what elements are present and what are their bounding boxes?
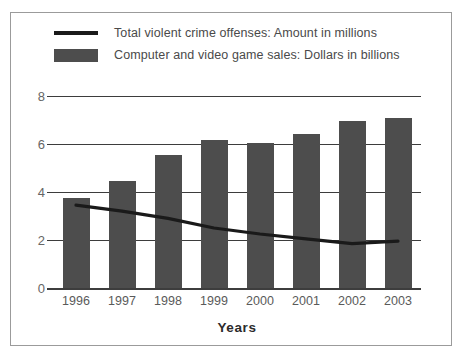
x-tick-label: 1998	[145, 294, 191, 308]
chart-figure: Total violent crime offenses: Amount in …	[0, 0, 465, 359]
y-tick-label: 2	[38, 234, 45, 247]
x-tick-label: 1999	[191, 294, 237, 308]
x-tick-label: 1997	[99, 294, 145, 308]
line-series	[53, 96, 421, 288]
legend-line-key-icon	[52, 31, 100, 35]
x-axis-title: Years	[53, 320, 421, 335]
x-tick-label: 2002	[329, 294, 375, 308]
plot-area: 02468 19961997199819992000200120022003	[53, 96, 421, 288]
y-tick-label: 4	[38, 186, 45, 199]
legend-label-violent-crime: Total violent crime offenses: Amount in …	[114, 26, 377, 40]
x-tick-label: 2000	[237, 294, 283, 308]
x-tick-label: 2003	[375, 294, 421, 308]
y-tick-label: 6	[38, 138, 45, 151]
x-axis-baseline	[47, 288, 421, 290]
legend-item-game-sales: Computer and video game sales: Dollars i…	[52, 44, 432, 66]
y-tick-label: 8	[38, 90, 45, 103]
x-tick-label: 2001	[283, 294, 329, 308]
x-tick-label: 1996	[53, 294, 99, 308]
y-tick-label: 0	[38, 282, 45, 295]
chart-legend: Total violent crime offenses: Amount in …	[52, 22, 432, 66]
legend-label-game-sales: Computer and video game sales: Dollars i…	[114, 48, 400, 62]
legend-item-violent-crime: Total violent crime offenses: Amount in …	[52, 22, 432, 44]
legend-swatch-key-icon	[52, 49, 100, 62]
